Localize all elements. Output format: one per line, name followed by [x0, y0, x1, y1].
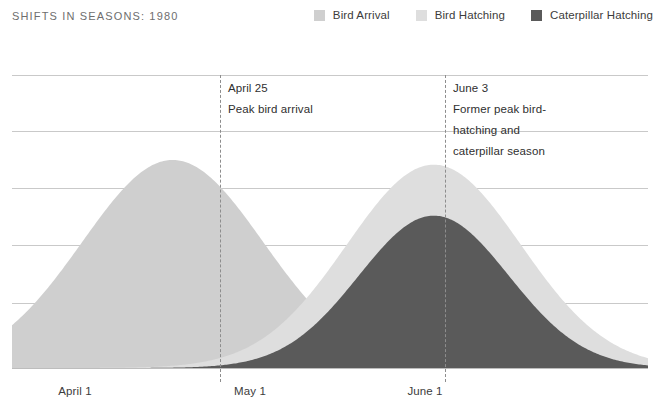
x-axis-label-may-1: May 1: [234, 385, 266, 397]
chart-root: SHIFTS IN SEASONS: 1980 Bird Arrival Bir…: [0, 0, 659, 416]
annotation-june-3-date: June 3: [453, 78, 546, 99]
x-axis-label-april-1: April 1: [58, 385, 91, 397]
annotation-april-25: April 25 Peak bird arrival: [228, 78, 313, 120]
annotation-june-3-line-3: caterpillar season: [453, 141, 546, 162]
annotation-april-25-date: April 25: [228, 78, 313, 99]
annotation-vline-june-3: [445, 75, 446, 382]
annotation-april-25-line-1: Peak bird arrival: [228, 99, 313, 120]
x-axis-label-june-1: June 1: [407, 385, 442, 397]
curve-layer: [0, 0, 659, 416]
annotation-june-3: June 3 Former peak bird- hatching and ca…: [453, 78, 546, 162]
annotation-june-3-line-1: Former peak bird-: [453, 99, 546, 120]
annotation-june-3-line-2: hatching and: [453, 120, 546, 141]
plot-area: April 25 Peak bird arrival June 3 Former…: [0, 0, 659, 416]
annotation-vline-april-25: [220, 75, 221, 382]
